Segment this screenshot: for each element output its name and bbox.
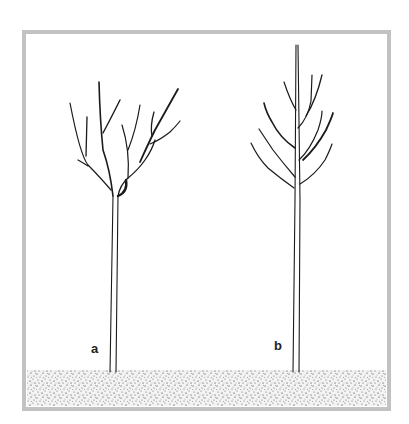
illustration-canvas [0,0,409,424]
ground-strip [27,370,386,406]
tree-label-a: a [91,342,98,355]
picture-frame [24,32,389,409]
tree-label-b: b [274,339,282,352]
tree-comparison-figure: a b [0,0,409,424]
